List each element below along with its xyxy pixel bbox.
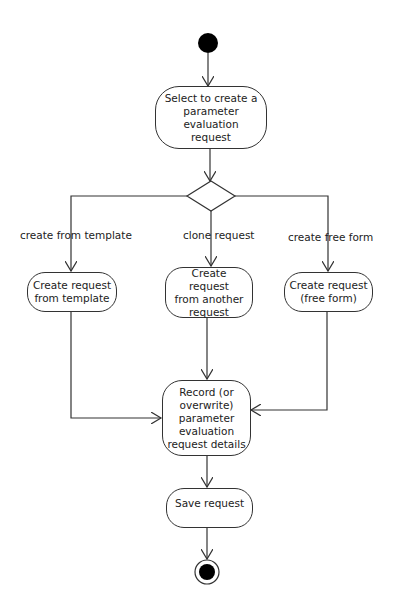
action-label: Record (or overwrite) parameter evaluati… (167, 386, 245, 451)
action-label: Save request (175, 497, 244, 510)
action-record-details: Record (or overwrite) parameter evaluati… (162, 380, 251, 456)
guard-clone-request: clone request (183, 229, 254, 241)
action-label: Create request from another request (170, 267, 248, 319)
action-label: Create request (free form) (289, 279, 367, 305)
guard-create-from-template: create from template (20, 229, 132, 241)
initial-node-icon (198, 33, 218, 53)
guard-create-free-form: create free form (288, 231, 373, 243)
action-label: Create request from template (33, 279, 111, 305)
decision-diamond-icon (187, 181, 235, 211)
action-select-create-request: Select to create a parameter evaluation … (155, 86, 267, 149)
action-save-request: Save request (166, 488, 253, 528)
action-label: Select to create a parameter evaluation … (160, 92, 262, 144)
action-create-free-form: Create request (free form) (284, 272, 373, 312)
final-node-inner-icon (199, 564, 215, 580)
action-create-from-another: Create request from another request (165, 267, 253, 318)
action-create-from-template: Create request from template (27, 272, 117, 312)
